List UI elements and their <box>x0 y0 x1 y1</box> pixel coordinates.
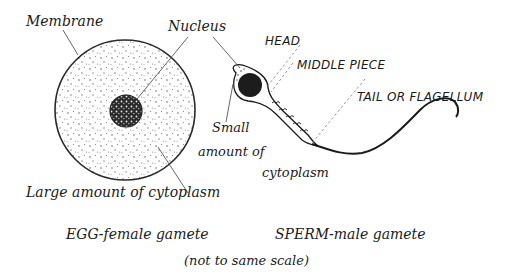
sperm-tail-flagellum <box>312 98 458 154</box>
egg-cell <box>55 40 195 180</box>
membrane-label: Membrane <box>26 14 103 28</box>
gametes-diagram: Membrane Nucleus Large amount of cytopla… <box>0 0 530 280</box>
sperm-caption: SPERM-male gamete <box>275 227 425 241</box>
large-cytoplasm-label: Large amount of cytoplasm <box>26 185 220 199</box>
middle-piece-label: MIDDLE PIECE <box>297 59 385 71</box>
tail-leader-line <box>312 79 365 143</box>
head-leader-line <box>266 45 300 88</box>
sperm-nucleus <box>238 73 262 97</box>
egg-nucleus <box>110 95 142 127</box>
tail-label: TAIL OR FLAGELLUM <box>357 91 483 103</box>
membrane-leader-line <box>63 30 78 55</box>
small-cytoplasm-label-line1: Small <box>212 121 249 134</box>
head-label: HEAD <box>265 35 300 47</box>
small-cytoplasm-label-line3: cytoplasm <box>262 166 329 179</box>
small-cytoplasm-label-line2: amount of <box>198 145 265 158</box>
sperm-cell <box>233 65 458 154</box>
sperm-cytoplasm-leader-line <box>226 84 233 122</box>
scale-note: (not to same scale) <box>184 254 309 267</box>
sperm-nucleus-leader-line <box>213 37 240 68</box>
nucleus-label: Nucleus <box>168 19 226 33</box>
egg-caption: EGG-female gamete <box>66 227 209 241</box>
